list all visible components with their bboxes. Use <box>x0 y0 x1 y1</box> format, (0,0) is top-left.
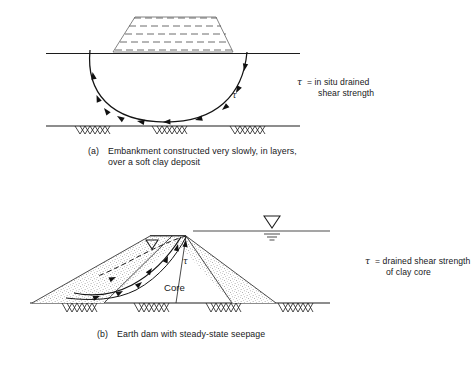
tau-label-slip-a: τ <box>232 90 237 100</box>
caption-b: (b) Earth dam with steady-state seepage <box>97 329 265 339</box>
panel-b: τ Core τ = drai <box>30 216 471 339</box>
caption-marker-a: (a) <box>88 146 99 156</box>
tau-symbol-a: τ <box>297 77 303 87</box>
caption-line-1-a: Embankment constructed very slowly, in l… <box>108 146 297 156</box>
note-block-b: τ = drained shear strength of clay core <box>365 256 471 277</box>
embankment-trapezoid <box>113 17 233 52</box>
caption-line-2-a: over a soft clay deposit <box>108 157 201 167</box>
note-line-1-b: = drained shear strength <box>375 256 471 266</box>
base-hatching-b <box>62 303 313 312</box>
shear-arrows-a <box>90 63 248 125</box>
core-label: Core <box>164 282 185 293</box>
reservoir-water-table-icon <box>264 216 280 240</box>
caption-line-1-b: Earth dam with steady-state seepage <box>117 329 265 339</box>
base-hatching-a <box>75 126 265 134</box>
caption-a: (a) Embankment constructed very slowly, … <box>88 146 297 167</box>
caption-marker-b: (b) <box>97 329 108 339</box>
tau-symbol-b: τ <box>365 256 371 266</box>
note-line-2-b: of clay core <box>386 267 431 277</box>
note-line-2-a: shear strength <box>318 88 374 98</box>
geotechnical-figure: τ τ = in situ drained shear strength (a)… <box>0 0 472 370</box>
panel-a: τ τ = in situ drained shear strength (a)… <box>46 17 374 167</box>
note-block-a: τ = in situ drained shear strength <box>297 77 374 98</box>
note-line-1-a: = in situ drained <box>307 77 370 87</box>
embankment-layer-lines <box>115 18 233 50</box>
tau-label-slip-b: τ <box>183 256 188 266</box>
slip-surface-a <box>90 50 247 122</box>
